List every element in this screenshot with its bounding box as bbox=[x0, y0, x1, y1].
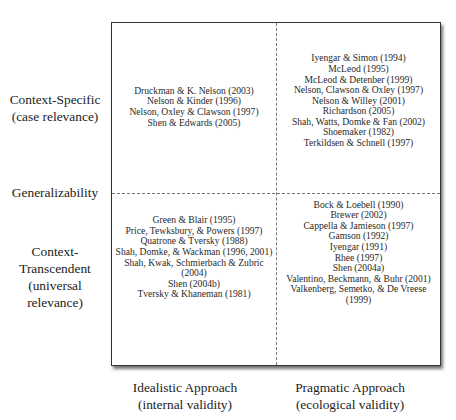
reference-item: Shen & Edwards (2005) bbox=[148, 118, 241, 129]
reference-item: Terkildsen & Schnell (1997) bbox=[304, 138, 413, 149]
reference-item: McLeod (1995) bbox=[328, 64, 388, 75]
y-label-bottom-line-3: (universal bbox=[0, 277, 110, 294]
reference-item: Shah, Kwak, Schmierbach & Zubric (2004) bbox=[112, 258, 276, 279]
y-axis-title-generalizability: Generalizability bbox=[0, 184, 110, 201]
reference-list: Bock & Loebell (1990) Brewer (2002) Capp… bbox=[277, 200, 440, 306]
reference-list: Druckman & K. Nelson (2003) Nelson & Kin… bbox=[129, 86, 258, 128]
quadrant-bottom-right: Bock & Loebell (1990) Brewer (2002) Capp… bbox=[277, 194, 440, 365]
reference-item: Nelson, Oxley & Clawson (1997) bbox=[129, 107, 258, 118]
y-label-context-specific: Context-Specific (case relevance) bbox=[0, 91, 110, 125]
reference-item: Tversky & Khaneman (1981) bbox=[137, 289, 250, 300]
y-label-bottom-line-2: Transcendent bbox=[0, 260, 110, 277]
y-label-top-line-2: (case relevance) bbox=[0, 108, 110, 125]
reference-list: Green & Blair (1995) Price, Tewksbury, &… bbox=[112, 215, 276, 300]
y-label-bottom-line-4: relevance) bbox=[0, 294, 110, 311]
quadrant-bottom-left: Green & Blair (1995) Price, Tewksbury, &… bbox=[112, 194, 276, 365]
reference-item: Valkenberg, Semetko, & De Vreese (1999) bbox=[277, 284, 440, 305]
quadrant-top-right: Iyengar & Simon (1994) McLeod (1995) McL… bbox=[277, 23, 440, 193]
x-label-idealistic-approach: Idealistic Approach (internal validity) bbox=[100, 379, 270, 413]
y-label-context-transcendent: Context- Transcendent (universal relevan… bbox=[0, 243, 110, 311]
x-label-pragmatic-approach: Pragmatic Approach (ecological validity) bbox=[265, 379, 435, 413]
x-label-right-line-1: Pragmatic Approach bbox=[265, 379, 435, 396]
reference-item: Shah, Domke, & Wackman (1996, 2001) bbox=[116, 247, 273, 258]
reference-item: Iyengar (1991) bbox=[330, 242, 387, 253]
quadrant-top-left: Druckman & K. Nelson (2003) Nelson & Kin… bbox=[112, 23, 276, 193]
x-label-left-line-1: Idealistic Approach bbox=[100, 379, 270, 396]
x-label-right-line-2: (ecological validity) bbox=[265, 396, 435, 413]
y-label-top-line-1: Context-Specific bbox=[0, 91, 110, 108]
quadrant-matrix: Druckman & K. Nelson (2003) Nelson & Kin… bbox=[111, 22, 441, 366]
y-label-bottom-line-1: Context- bbox=[0, 243, 110, 260]
x-label-left-line-2: (internal validity) bbox=[100, 396, 270, 413]
reference-list: Iyengar & Simon (1994) McLeod (1995) McL… bbox=[292, 53, 425, 148]
